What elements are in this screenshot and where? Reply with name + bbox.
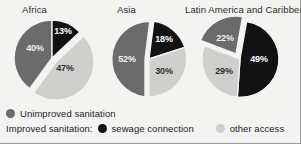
dark-gray-dot-icon <box>6 109 15 118</box>
slice-label-latin-unimproved: 22% <box>216 33 234 43</box>
figure-frame: Africa 40% 13% 47% Asia <box>0 0 301 144</box>
legend-prefix-improved: Improved sanitation: <box>6 123 93 134</box>
pie-asia-svg: 52% 18% 30% <box>103 19 191 101</box>
slice-label-africa-other: 47% <box>56 63 74 73</box>
chart-title-africa: Africa <box>22 4 47 15</box>
legend: Unimproved sanitation Improved sanitatio… <box>6 106 296 136</box>
pie-africa-svg: 40% 13% 47% <box>10 18 100 100</box>
slice-label-africa-unimproved: 40% <box>26 43 44 53</box>
chart-title-latin-america: Latin America and Caribbean <box>185 4 301 15</box>
pie-latin-america-graphic: 22% 49% 29% <box>196 17 290 103</box>
legend-label-other-access: other access <box>230 123 284 134</box>
pie-latin-svg: 22% 49% 29% <box>196 17 290 103</box>
pie-chart-latin-america: Latin America and Caribbean 22% 49% 29% <box>186 0 300 104</box>
slice-label-latin-other: 29% <box>215 66 233 76</box>
slice-label-asia-unimproved: 52% <box>118 54 136 64</box>
slice-label-asia-other: 30% <box>155 66 173 76</box>
pie-asia-graphic: 52% 18% 30% <box>103 19 191 101</box>
legend-row-improved: Improved sanitation: sewage connection o… <box>6 121 296 136</box>
legend-row-unimproved: Unimproved sanitation <box>6 106 296 121</box>
slice-label-asia-sewage: 18% <box>155 34 173 44</box>
legend-label-sewage-connection: sewage connection <box>112 123 194 134</box>
chart-title-asia: Asia <box>117 4 136 15</box>
black-dot-icon <box>98 124 107 133</box>
legend-label-unimproved: Unimproved sanitation <box>20 108 116 119</box>
slice-label-latin-sewage: 49% <box>250 54 268 64</box>
pie-africa-graphic: 40% 13% 47% <box>10 18 100 100</box>
slice-label-africa-sewage: 13% <box>54 26 72 36</box>
light-gray-dot-icon <box>216 124 225 133</box>
pie-chart-africa: Africa 40% 13% 47% <box>2 0 106 104</box>
pie-chart-asia: Asia 52% 18% 30% <box>100 0 190 104</box>
